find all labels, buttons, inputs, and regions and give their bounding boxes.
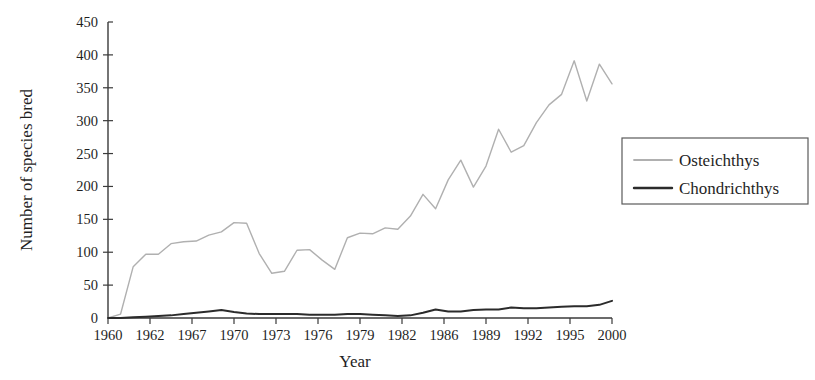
x-tick-label-1992: 1992 <box>514 327 543 343</box>
y-tick-label-250: 250 <box>76 146 98 162</box>
y-tick-label-50: 50 <box>84 277 99 293</box>
y-tick-label-300: 300 <box>76 113 98 129</box>
x-axis-title: Year <box>339 352 371 371</box>
y-tick-label-400: 400 <box>76 47 98 63</box>
x-tick-label-1962: 1962 <box>136 327 165 343</box>
line-chart-figure: Number of species bred Year 050100150200… <box>0 0 815 380</box>
x-tick-label-1973: 1973 <box>262 327 291 343</box>
x-tick-label-1960: 1960 <box>94 327 123 343</box>
legend-label-chondrichthys: Chondrichthys <box>679 179 779 198</box>
y-tick-label-0: 0 <box>91 310 98 326</box>
x-tick-label-1989: 1989 <box>472 327 501 343</box>
y-axis-title: Number of species bred <box>17 89 36 251</box>
chart-legend: OsteichthysChondrichthys <box>622 138 808 204</box>
x-tick-label-1982: 1982 <box>388 327 417 343</box>
x-tick-label-1970: 1970 <box>220 327 249 343</box>
x-tick-label-1979: 1979 <box>346 327 375 343</box>
y-tick-label-350: 350 <box>76 80 98 96</box>
x-tick-label-1995: 1995 <box>556 327 585 343</box>
legend-label-osteichthys: Osteichthys <box>679 151 759 170</box>
y-tick-label-450: 450 <box>76 14 98 30</box>
x-tick-label-1976: 1976 <box>304 327 333 343</box>
y-tick-label-200: 200 <box>76 178 98 194</box>
x-tick-label-2000: 2000 <box>598 327 627 343</box>
y-tick-label-150: 150 <box>76 211 98 227</box>
x-tick-label-1986: 1986 <box>430 327 459 343</box>
x-tick-label-1967: 1967 <box>178 327 207 343</box>
y-tick-label-100: 100 <box>76 244 98 260</box>
